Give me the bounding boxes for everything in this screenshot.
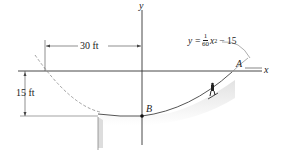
point-a-label: A (236, 59, 242, 69)
arrow-icon (24, 72, 27, 76)
point-b (140, 114, 144, 118)
arrow-icon (46, 45, 50, 48)
x-axis-label: x (264, 65, 268, 75)
equation-rest: − 15 (219, 36, 236, 46)
parabola-equation: y = 1 60 x2 − 15 (188, 33, 236, 48)
dimension-30ft: 30 ft (80, 41, 99, 51)
ground-edge-shading (98, 117, 103, 148)
arrow-icon (24, 112, 27, 116)
equation-lhs: y = (188, 36, 201, 46)
arrow-icon (137, 45, 141, 48)
point-b-label: B (146, 104, 152, 114)
diagram-canvas (0, 0, 284, 156)
equation-denominator: 60 (202, 41, 209, 48)
equation-fraction: 1 60 (202, 33, 209, 48)
y-axis-label: y (139, 1, 143, 11)
dimension-15ft: 15 ft (16, 88, 35, 98)
slope-shading (100, 80, 235, 125)
equation-exponent: 2 (214, 38, 217, 44)
